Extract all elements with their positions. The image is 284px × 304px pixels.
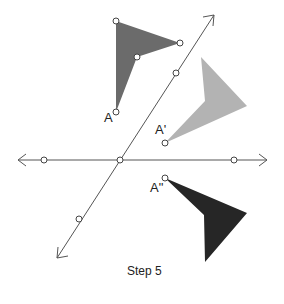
step-caption: Step 5: [127, 264, 162, 278]
transformation-diagram: [0, 0, 284, 304]
label-a-prime: A': [155, 122, 166, 137]
label-a: A: [104, 110, 113, 125]
horizontal-line: [18, 154, 267, 166]
original-shape: [116, 21, 180, 112]
label-a-double-prime: A": [150, 180, 163, 195]
second-reflection-shape: [165, 178, 247, 262]
